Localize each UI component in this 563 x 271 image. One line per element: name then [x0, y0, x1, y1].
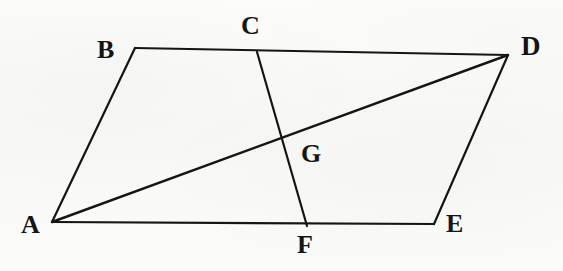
transversal-cf [257, 52, 307, 226]
vertex-label-d: D [521, 33, 541, 60]
vertex-label-c: C [241, 13, 260, 39]
segments-group [52, 48, 508, 226]
geometry-figure: ABCDEFG [0, 0, 563, 271]
figure-canvas [0, 0, 563, 271]
vertex-label-e: E [446, 211, 463, 237]
vertex-label-b: B [97, 37, 114, 63]
vertex-label-a: A [21, 212, 40, 238]
segment-bd [135, 48, 508, 55]
vertex-label-f: F [297, 232, 313, 258]
segment-de [434, 55, 508, 224]
vertex-label-g: G [301, 141, 321, 167]
segment-ea [52, 222, 434, 224]
